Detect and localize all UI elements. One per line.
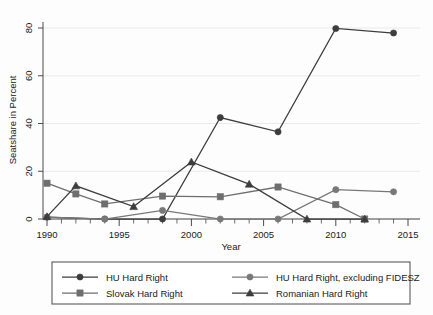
data-point-circle — [217, 216, 223, 222]
y-tick-label: 20 — [23, 166, 34, 177]
legend-label: Slovak Hard Right — [106, 288, 183, 299]
legend-label: Romanian Hard Right — [276, 288, 368, 299]
data-point-square — [73, 191, 79, 197]
data-point-square — [159, 193, 165, 199]
data-point-square — [333, 202, 339, 208]
x-tick-label: 1990 — [36, 229, 57, 240]
data-point-circle — [217, 114, 223, 120]
y-tick-label: 80 — [23, 23, 34, 34]
y-tick-label: 0 — [23, 216, 34, 221]
chart-container: 020406080 199019952000200520102015 Seats… — [0, 0, 433, 315]
data-point-circle — [333, 25, 339, 31]
seatshare-line-chart: 020406080 199019952000200520102015 Seats… — [0, 0, 433, 315]
data-point-circle — [275, 129, 281, 135]
x-tick-label: 1995 — [109, 229, 130, 240]
data-point-circle — [247, 274, 253, 280]
data-point-square — [217, 194, 223, 200]
x-tick-label: 2005 — [253, 229, 274, 240]
legend-label: HU Hard Right, excluding FIDESZ — [276, 272, 420, 283]
data-point-circle — [333, 187, 339, 193]
x-tick-label: 2010 — [325, 229, 346, 240]
data-point-circle — [390, 189, 396, 195]
y-tick-label: 40 — [23, 118, 34, 129]
y-tick-label: 60 — [23, 70, 34, 81]
legend-label: HU Hard Right — [106, 272, 168, 283]
data-point-square — [275, 184, 281, 190]
data-point-square — [102, 201, 108, 207]
x-tick-label: 2000 — [181, 229, 202, 240]
data-point-circle — [275, 216, 281, 222]
data-point-circle — [159, 207, 165, 213]
data-point-square — [44, 180, 50, 186]
y-axis-title: Seatshare in Percent — [7, 75, 18, 164]
data-point-circle — [77, 274, 83, 280]
chart-legend: HU Hard RightHU Hard Right, excluding FI… — [52, 262, 420, 304]
data-point-square — [77, 290, 83, 296]
x-axis-title: Year — [221, 241, 240, 252]
x-tick-label: 2015 — [397, 229, 418, 240]
data-point-circle — [159, 216, 165, 222]
data-point-circle — [102, 216, 108, 222]
data-point-circle — [390, 30, 396, 36]
